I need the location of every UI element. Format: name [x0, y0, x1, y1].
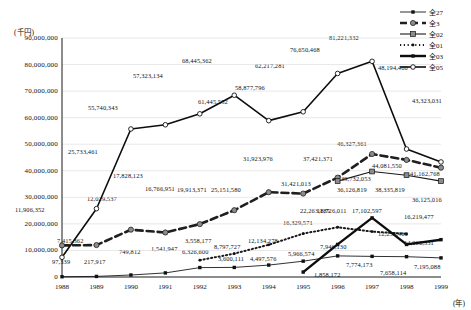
legend-swatch: [399, 51, 427, 61]
legend-label: 全01: [429, 40, 443, 50]
legend-swatch: [399, 40, 427, 50]
legend-swatch: [399, 18, 427, 28]
legend-swatch: [399, 7, 427, 17]
legend-label: 全02: [429, 29, 443, 39]
series-4: [301, 216, 442, 274]
chart-container: (千円) (年) 010,000,00020,000,00030,000,000…: [0, 0, 471, 310]
legend-item-4[interactable]: 全03: [399, 50, 469, 61]
legend-swatch: [399, 62, 427, 72]
legend-label: 全3: [429, 18, 440, 28]
series-2: [335, 169, 443, 183]
legend-item-3[interactable]: 全01: [399, 39, 469, 50]
legend-item-0[interactable]: 全27: [399, 6, 469, 17]
legend-label: 全05: [429, 62, 443, 72]
legend-item-1[interactable]: 全3: [399, 17, 469, 28]
legend-item-5[interactable]: 全05: [399, 61, 469, 72]
legend-item-2[interactable]: 全02: [399, 28, 469, 39]
legend-swatch: [399, 29, 427, 39]
legend-label: 全03: [429, 51, 443, 61]
series-0: [60, 254, 442, 278]
legend-label: 全27: [429, 7, 443, 17]
chart-legend: 全27全3全02全01全03全05: [399, 6, 469, 72]
